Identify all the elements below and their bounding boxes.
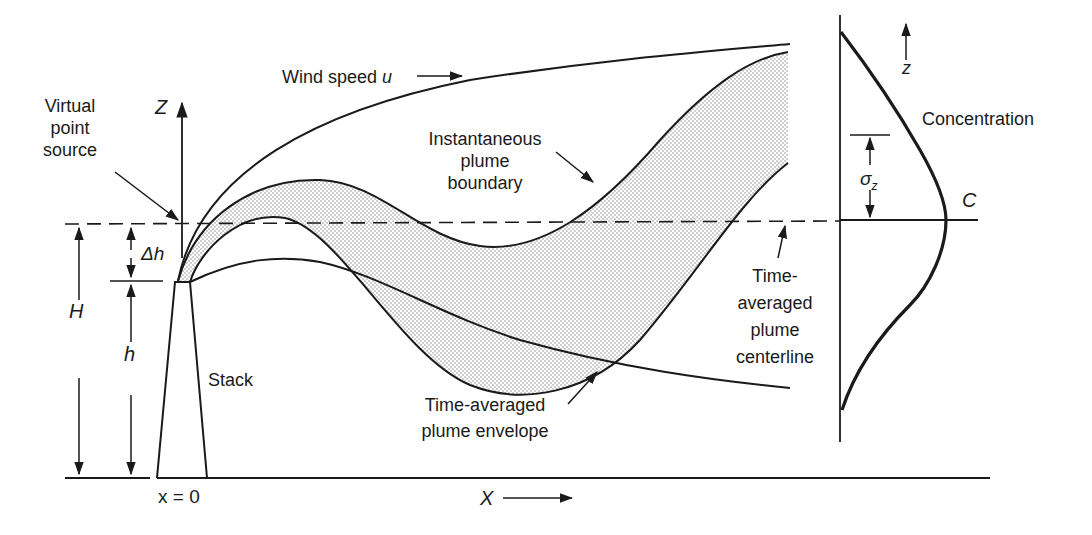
H-label: H [69,300,83,323]
label-line: Time- [720,263,830,290]
sigma-label: σz [860,168,877,193]
label-line: Instantaneous [415,128,555,150]
envelope-label: Time-averaged plume envelope [405,392,565,444]
concentration-label: Concentration [922,108,1034,130]
stack [157,282,207,478]
label-line: averaged [720,290,830,317]
delta-h-label: Δh [141,243,164,265]
origin-label: x = 0 [158,486,200,508]
label-line: plume [720,317,830,344]
wind-speed-label: Wind speed u [282,66,392,88]
label-line: boundary [415,172,555,194]
stack-label: Stack [208,369,253,391]
label-line: Time-averaged [405,392,565,418]
gaussian-concentration-curve [841,32,946,410]
wind-speed-text: Wind speed [282,67,377,87]
label-line: Virtual [30,95,110,117]
plume-diagram [0,0,1092,535]
label-line: plume [415,150,555,172]
x-axis-label: X [480,487,493,510]
label-line: plume envelope [405,418,565,444]
virtual-source-pointer [115,172,178,220]
centerline-label: Time- averaged plume centerline [720,263,830,371]
label-line: source [30,139,110,161]
instantaneous-plume-label: Instantaneous plume boundary [415,128,555,194]
sigma-subscript: z [871,179,877,193]
label-line: point [30,117,110,139]
C-label: C [962,189,976,212]
virtual-source-label: Virtual point source [30,95,110,161]
centerline-pointer [778,226,785,258]
z-axis-label: Z [155,96,167,119]
wind-symbol: u [382,67,392,87]
h-label: h [124,343,135,366]
instantaneous-pointer [556,152,593,182]
small-z-label: z [902,58,911,79]
label-line: centerline [720,344,830,371]
sigma-symbol: σ [860,168,871,189]
